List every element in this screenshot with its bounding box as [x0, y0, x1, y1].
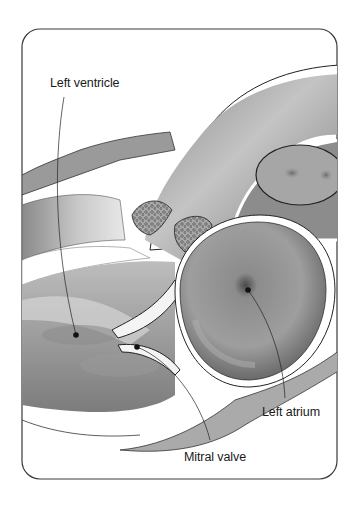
label-left-ventricle: Left ventricle [50, 76, 119, 90]
label-left-atrium: Left atrium [262, 405, 320, 419]
label-mitral-valve: Mitral valve [184, 450, 246, 464]
dot-left-atrium [245, 287, 251, 293]
dot-mitral-valve [134, 344, 140, 350]
dot-left-ventricle [73, 332, 79, 338]
